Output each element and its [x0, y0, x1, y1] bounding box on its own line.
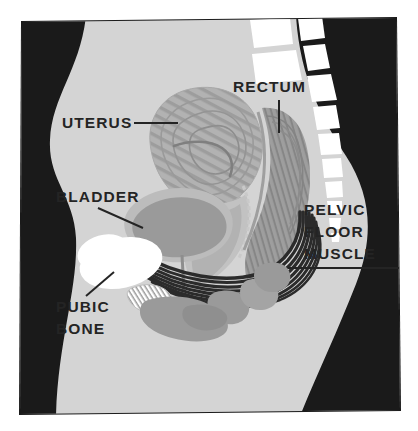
- label-rectum-text: RECTUM: [233, 78, 306, 95]
- anatomy-svg: UTERUS BLADDER PUBIC BONE RECTUM PELVIC …: [0, 0, 418, 431]
- label-pelvic-floor-muscle-text-line2: FLOOR: [304, 223, 364, 240]
- anatomy-figure: UTERUS BLADDER PUBIC BONE RECTUM PELVIC …: [0, 0, 418, 431]
- label-uterus-text: UTERUS: [62, 114, 132, 131]
- label-pelvic-floor-muscle-text-line3: MUSCLE: [304, 245, 376, 262]
- label-pelvic-floor-muscle-text-line1: PELVIC: [304, 201, 365, 218]
- label-pubic-bone-text-line1: PUBIC: [56, 298, 110, 315]
- label-bladder-text: BLADDER: [56, 188, 139, 205]
- label-pubic-bone-text-line2: BONE: [56, 320, 105, 337]
